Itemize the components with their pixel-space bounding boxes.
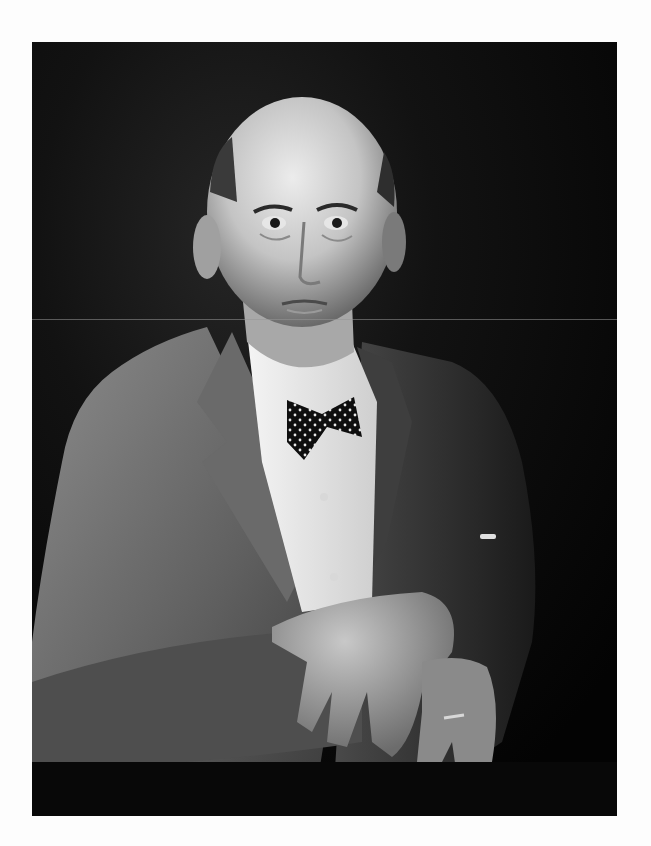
shirt-button (320, 493, 328, 501)
ear-left (193, 215, 221, 279)
print-crease-line (32, 319, 617, 320)
ear-right (382, 212, 406, 272)
head (207, 97, 397, 327)
shirt-button (330, 573, 338, 581)
page-background (0, 0, 651, 846)
portrait-photo (32, 42, 617, 816)
chair-back (32, 762, 617, 816)
pocket-square (480, 534, 496, 539)
portrait-illustration (32, 42, 617, 816)
